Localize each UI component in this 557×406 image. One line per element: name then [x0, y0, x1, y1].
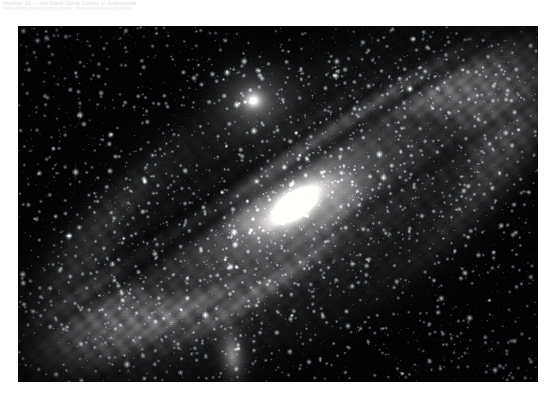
- andromeda-galaxy-photograph: [18, 26, 538, 382]
- caption-line-2: wide-field photographic plate, blue-sens…: [3, 5, 132, 11]
- photo-frame: [18, 26, 538, 382]
- caption-strip: Messier 31 — the Great Spiral Galaxy in …: [0, 0, 557, 18]
